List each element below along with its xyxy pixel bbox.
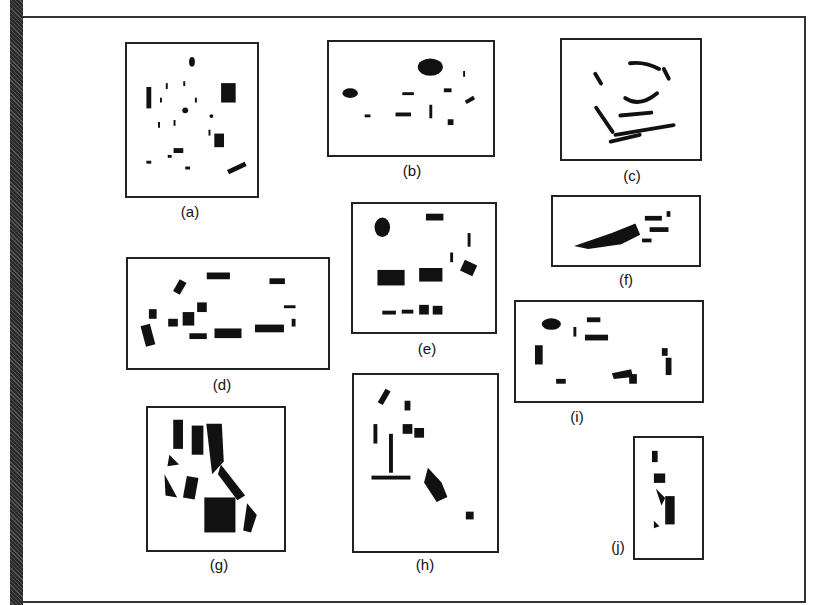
panel-e <box>351 202 497 334</box>
panel-c <box>560 38 702 161</box>
panel-g <box>146 406 286 552</box>
silhouette-g-image <box>148 408 284 550</box>
silhouette-b-image <box>329 42 493 155</box>
silhouette-i-image <box>516 302 702 401</box>
panel-h-caption: (h) <box>405 556 445 573</box>
silhouette-h-image <box>354 375 497 551</box>
panel-d <box>126 257 330 370</box>
silhouette-e-image <box>353 204 495 332</box>
panel-i <box>514 300 704 403</box>
panel-i-caption: (i) <box>557 408 597 425</box>
silhouette-a-image <box>127 44 257 196</box>
panel-b-caption: (b) <box>392 162 432 179</box>
panel-j-caption: (j) <box>598 538 638 555</box>
panel-g-caption: (g) <box>199 556 239 573</box>
panel-a-caption: (a) <box>170 203 210 220</box>
panel-j <box>633 436 704 560</box>
silhouette-j-image <box>635 438 702 558</box>
silhouette-d-image <box>128 259 328 368</box>
panel-f <box>551 195 701 267</box>
panel-f-caption: (f) <box>606 271 646 288</box>
silhouette-c-image <box>562 40 700 159</box>
panel-a <box>125 42 259 198</box>
panel-c-caption: (c) <box>612 167 652 184</box>
panel-e-caption: (e) <box>407 340 447 357</box>
panel-h <box>352 373 499 553</box>
panel-b <box>327 40 495 157</box>
panel-d-caption: (d) <box>202 376 242 393</box>
silhouette-f-image <box>553 197 699 265</box>
